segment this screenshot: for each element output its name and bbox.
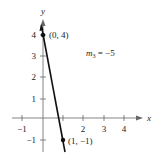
x-axis-label: x: [146, 113, 151, 123]
point-label: (0, 4): [49, 30, 69, 40]
x-axis-arrow-icon: [136, 116, 143, 121]
y-tick-label: 1: [32, 94, 37, 104]
x-tick-label: −1: [17, 124, 27, 134]
y-tick-label: −1: [26, 135, 36, 145]
slope-annotation: m3 = −5: [86, 48, 115, 59]
y-tick-label: 3: [32, 51, 37, 61]
point-1-m1: [61, 138, 65, 142]
x-tick-label: 4: [122, 124, 127, 134]
x-tick-label: 2: [81, 124, 86, 134]
y-tick-label: 2: [32, 72, 37, 82]
line-m3: [42, 26, 66, 152]
point-0-4: [41, 33, 45, 37]
y-tick-label: 4: [32, 30, 37, 40]
x-tick-label: 3: [102, 124, 107, 134]
chart: −1 2 3 4 4 3 2 1 −1 x y (0, 4) (1, −1) m…: [0, 0, 156, 159]
slope-value: = −5: [96, 48, 116, 58]
y-axis-label: y: [40, 6, 45, 16]
point-label: (1, −1): [68, 136, 93, 146]
